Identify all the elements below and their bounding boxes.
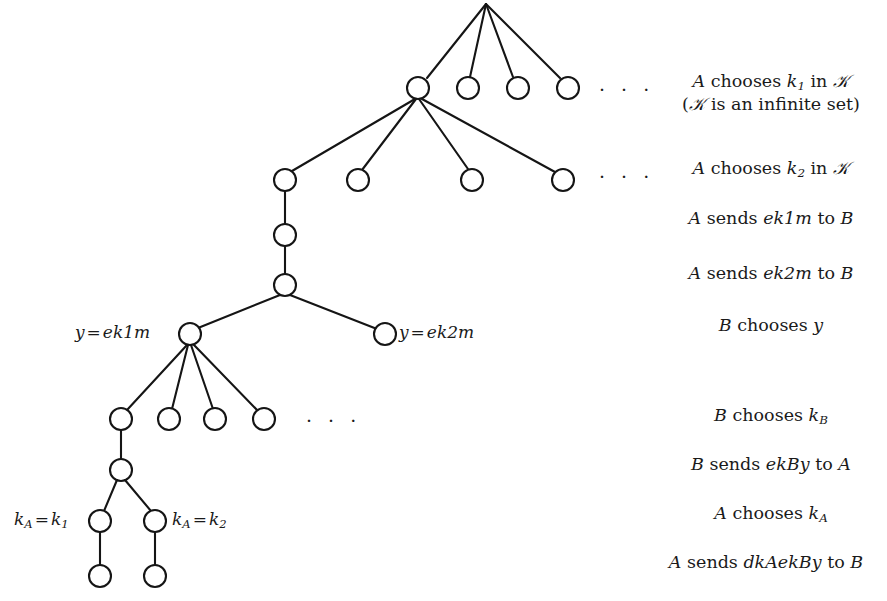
game-tree-figure: · · · · · · · · · y=ek1m y=ek2m kA=k1 kA…: [0, 0, 887, 601]
edges-level1-to-level2: [292, 99, 555, 172]
level4-nodes: [110, 408, 275, 430]
node-level1-2: [457, 77, 479, 99]
node-level2-3: [461, 169, 483, 191]
node-chain-1: [274, 224, 296, 246]
node-ka-k1: [89, 510, 111, 532]
edges-y-split: [198, 295, 377, 329]
annotation-b-sends-ekby: B sends ekBy to A: [655, 454, 887, 475]
node-level4-2: [158, 408, 180, 430]
label-ka-k2: kA=k2: [172, 510, 227, 530]
ellipsis-level3: · · ·: [306, 411, 361, 430]
annotation-a-chooses-k2: A chooses k2 in 𝒦: [655, 158, 887, 179]
edges-root-to-level1: [427, 4, 560, 78]
annotation-a-chooses-ka: A chooses kA: [655, 503, 887, 524]
edges-ka-split: [104, 480, 151, 511]
ellipsis-level2: · · ·: [599, 167, 654, 186]
node-chain-2: [274, 274, 296, 296]
annotation-line-2: (𝒦 is an infinite set): [655, 93, 887, 116]
node-level2-4: [552, 169, 574, 191]
annotation-b-chooses-y: B chooses y: [655, 315, 887, 336]
node-level4-1: [110, 408, 132, 430]
level2-nodes: [274, 169, 574, 191]
annotation-a-chooses-k1: A chooses k1 in 𝒦 (𝒦 is an infinite set): [655, 70, 887, 116]
label-ka-k1: kA=k1: [14, 510, 69, 530]
annotation-a-sends-ek2m: A sends ek2m to B: [655, 263, 887, 284]
node-y-ek2m: [374, 323, 396, 345]
node-level1-4: [557, 77, 579, 99]
node-level4-4: [253, 408, 275, 430]
node-level4-3: [204, 408, 226, 430]
node-leaf-2: [144, 565, 166, 587]
level1-nodes: [407, 77, 579, 99]
node-level1-3: [507, 77, 529, 99]
edges-y-to-level4: [127, 345, 258, 411]
node-leaf-1: [89, 565, 111, 587]
ellipsis-level1: · · ·: [599, 80, 654, 99]
node-ka-k2: [144, 510, 166, 532]
node-y-ek1m: [179, 323, 201, 345]
annotation-b-chooses-kb: B chooses kB: [655, 405, 887, 426]
annotation-line-1: A chooses k1 in 𝒦: [655, 70, 887, 93]
edges-to-leaves: [100, 532, 155, 565]
label-y-ek2m: y=ek2m: [399, 323, 474, 343]
node-chain2-1: [110, 459, 132, 481]
node-level2-2: [347, 169, 369, 191]
label-y-ek1m: y=ek1m: [75, 323, 150, 343]
annotation-a-sends-dkaekby: A sends dkAekBy to B: [645, 552, 887, 573]
node-level2-1: [274, 169, 296, 191]
annotation-a-sends-ek1m: A sends ek1m to B: [655, 208, 887, 229]
node-level1-1: [407, 77, 429, 99]
